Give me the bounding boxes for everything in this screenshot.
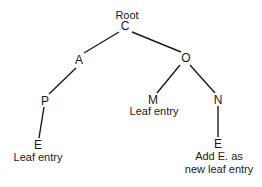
edge-o-n — [190, 65, 215, 93]
node-e-right: E — [214, 138, 222, 150]
edge-c-a — [84, 32, 119, 53]
e-left-leaf-label: Leaf entry — [14, 151, 63, 163]
node-e-left: E — [34, 139, 42, 151]
node-o: O — [181, 52, 190, 64]
node-a: A — [75, 54, 83, 66]
edge-p-e — [39, 107, 44, 138]
e-right-label-line2: new leaf entry — [185, 163, 253, 175]
node-n: N — [214, 94, 223, 106]
edge-a-p — [49, 68, 76, 94]
e-right-label-line1: Add E. as — [195, 150, 243, 162]
edge-c-o — [132, 32, 181, 52]
node-c: C — [121, 20, 130, 32]
node-p: P — [41, 95, 49, 107]
m-leaf-label: Leaf entry — [130, 105, 179, 117]
edge-o-m — [157, 65, 180, 93]
